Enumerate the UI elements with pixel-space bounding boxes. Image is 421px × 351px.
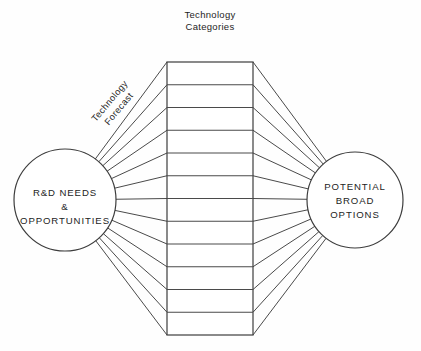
right-connector-line — [253, 236, 323, 313]
left-connector-line — [96, 241, 167, 335]
right-node-label-line: OPTIONS — [330, 209, 379, 220]
right-connector-line — [253, 226, 315, 266]
technology-forecast-label: TechnologyForecast — [90, 79, 139, 132]
left-connector-line — [116, 199, 167, 200]
right-node-label-line: POTENTIAL — [324, 181, 385, 192]
left-node-circle[interactable] — [14, 149, 116, 251]
right-node-label-line: BROAD — [336, 195, 375, 206]
left-node-label-line: R&D NEEDS — [33, 187, 97, 198]
right-connector-line — [253, 85, 323, 164]
diagram-canvas: TechnologyCategories R&D NEEDS&OPPORTUNI… — [0, 0, 421, 351]
left-connector-line — [115, 210, 167, 221]
left-node-label-line: & — [61, 201, 68, 212]
diagram-svg: TechnologyCategories R&D NEEDS&OPPORTUNI… — [0, 0, 421, 351]
left-connector-line — [99, 238, 167, 313]
right-connector-line — [253, 153, 311, 180]
diagram-title-line: Categories — [186, 21, 235, 32]
right-connector-line — [253, 199, 307, 200]
right-connector-line — [253, 62, 326, 161]
left-connector-line — [107, 130, 167, 171]
right-connector-line — [253, 219, 311, 244]
left-connector-line — [108, 228, 167, 267]
left-connector-line — [111, 153, 167, 179]
left-connector-line — [115, 176, 167, 188]
left-connector-line — [103, 234, 167, 290]
left-connector-line — [112, 220, 167, 244]
right-connector-line — [253, 238, 326, 335]
diagram-title-line: Technology — [184, 9, 235, 20]
right-connector-line — [253, 210, 308, 221]
right-connector-line — [253, 176, 308, 189]
left-node-label-line: OPPORTUNITIES — [20, 215, 110, 226]
right-connector-line — [253, 130, 315, 173]
diagram-title: TechnologyCategories — [184, 9, 235, 32]
